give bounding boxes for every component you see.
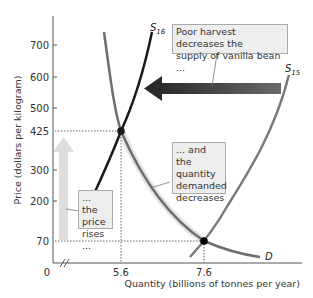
y-tick-425: 425 <box>30 126 49 137</box>
x-tick-5-6: 5.6 <box>113 267 129 278</box>
x-tick-7-6: 7.6 <box>196 267 212 278</box>
price-rises-note: ... the price rises ... <box>78 190 113 229</box>
equilibrium-point-new <box>117 127 125 135</box>
y-tick-70: 70 <box>36 236 49 247</box>
y-tick-200: 200 <box>30 196 49 207</box>
y-tick-300: 300 <box>30 165 49 176</box>
y-tick-600: 600 <box>30 72 49 83</box>
s15-label: S15 <box>285 63 301 77</box>
x-tick-0: 0 <box>44 267 50 278</box>
x-axis-title: Quantity (billions of tonnes per year) <box>125 278 300 289</box>
y-tick-500: 500 <box>30 103 49 114</box>
y-ticks <box>53 45 57 201</box>
supply-decrease-note: Poor harvest decreases the supply of van… <box>172 24 288 54</box>
y-axis-title: Price (dollars per kilogram) <box>12 76 23 205</box>
demand-label: D <box>265 251 273 262</box>
price-rises-arrow <box>53 137 74 240</box>
y-tick-700: 700 <box>30 40 49 51</box>
supply-shift-arrow <box>144 76 281 101</box>
quantity-decreases-note: ... and the quantity demanded decreases <box>172 142 226 194</box>
equilibrium-point-original <box>200 237 208 245</box>
